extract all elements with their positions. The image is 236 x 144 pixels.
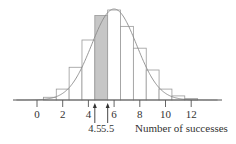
- x-tick-label: 6: [111, 108, 117, 120]
- arrow-head-icon: [93, 103, 97, 108]
- arrow-head-icon: [106, 103, 110, 108]
- x-tick-label: 0: [34, 108, 40, 120]
- histogram-bars: [43, 10, 197, 100]
- x-axis-label: Number of successes: [135, 122, 228, 134]
- histogram-chart: 024681012 4.55.5 Number of successes: [0, 0, 236, 144]
- histogram-bar: [82, 40, 95, 100]
- histogram-bar: [121, 26, 134, 100]
- histogram-bar: [69, 67, 82, 100]
- boundary-label: 4.5: [88, 123, 101, 134]
- boundary-label: 5.5: [101, 123, 114, 134]
- x-tick-label: 2: [60, 108, 66, 120]
- histogram-bar: [159, 89, 172, 100]
- boundary-annotations: 4.55.5: [88, 103, 114, 134]
- x-tick-label: 8: [137, 108, 143, 120]
- histogram-bar: [108, 10, 121, 100]
- histogram-bar: [56, 89, 69, 100]
- x-tick-label: 10: [160, 108, 172, 120]
- x-tick-label: 12: [186, 108, 197, 120]
- shaded-bar: [95, 15, 108, 100]
- histogram-bar: [133, 48, 146, 100]
- x-tick-label: 4: [86, 108, 92, 120]
- x-axis-ticks: 024681012: [34, 100, 196, 120]
